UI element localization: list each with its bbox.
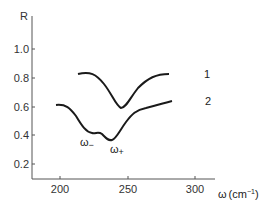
y-tick-0.2: 0.2 <box>14 158 29 170</box>
y-tick-0.6: 0.6 <box>14 101 29 113</box>
y-tick-1.0: 1.0 <box>14 43 29 55</box>
y-tick-labels: 1.0 0.8 0.6 0.4 0.2 <box>14 43 29 170</box>
x-tick-labels: 200 250 300 <box>51 183 204 195</box>
x-tick-250: 250 <box>119 183 137 195</box>
omega-minus-label: ω− <box>80 136 94 150</box>
x-axis-label: ω(cm−1) <box>218 188 259 200</box>
curve-1 <box>78 73 169 108</box>
omega-plus-label: ω+ <box>110 143 124 157</box>
curve-1-label: 1 <box>204 68 210 80</box>
chart: 1.0 0.8 0.6 0.4 0.2 R 200 250 300 ω(cm−1… <box>0 0 271 210</box>
curve-2 <box>56 101 172 140</box>
x-tick-300: 300 <box>186 183 204 195</box>
x-tick-200: 200 <box>51 183 69 195</box>
svg-text:ω(cm−1): ω(cm−1) <box>218 188 259 200</box>
y-axis-label: R <box>20 10 28 22</box>
y-tick-0.8: 0.8 <box>14 72 29 84</box>
y-tick-0.4: 0.4 <box>14 129 29 141</box>
curve-2-label: 2 <box>205 95 211 107</box>
